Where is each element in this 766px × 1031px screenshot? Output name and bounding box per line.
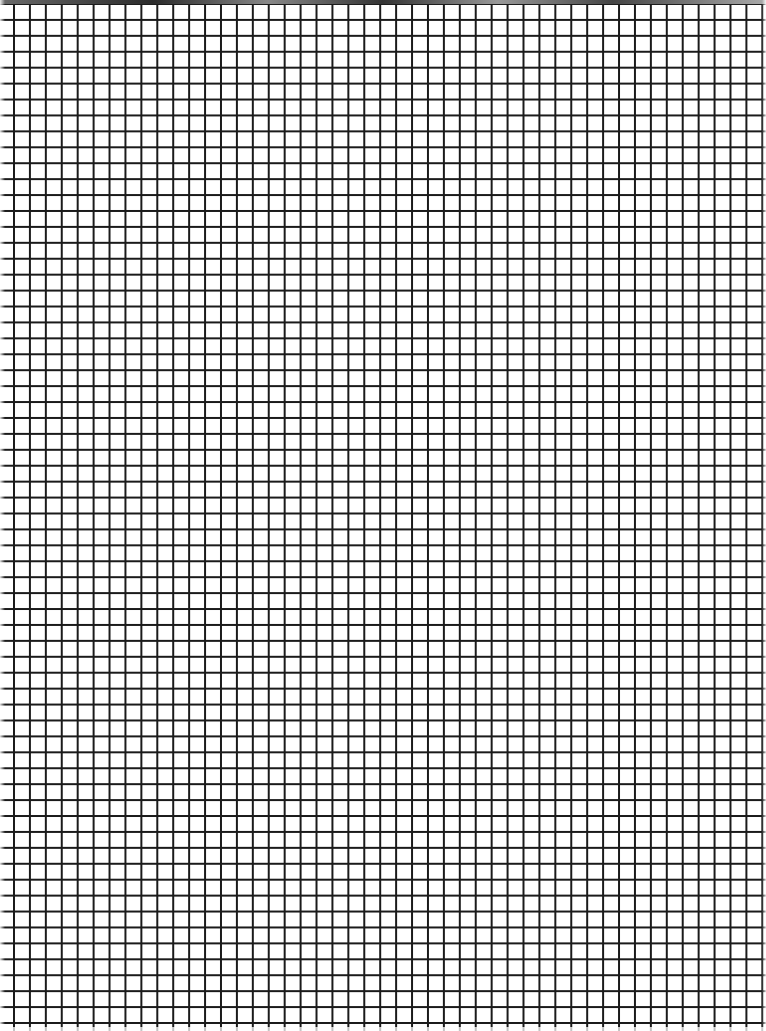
grid-paper bbox=[0, 3, 766, 1031]
bottom-margin bbox=[0, 1027, 766, 1031]
left-margin bbox=[0, 0, 5, 1031]
right-margin bbox=[762, 0, 766, 1031]
top-edge-strip bbox=[0, 0, 766, 4]
